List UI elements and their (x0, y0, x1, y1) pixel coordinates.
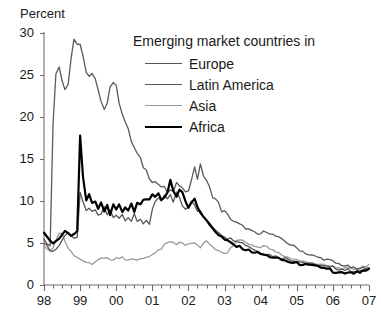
x-axis-tick-label: 03 (212, 294, 238, 307)
x-axis-tick-label: 04 (248, 294, 274, 307)
legend-line-swatch (145, 63, 182, 64)
legend-items: EuropeLatin AmericaAsiaAfrica (133, 53, 315, 137)
x-axis-tick-label: 05 (284, 294, 310, 307)
x-axis-tick-label: 00 (103, 294, 129, 307)
series-line-asia (44, 233, 369, 269)
y-axis-tick-label: 30 (8, 26, 34, 39)
legend-item-asia: Asia (145, 95, 315, 116)
legend-item-label: Latin America (189, 78, 274, 92)
x-axis-tick-label: 06 (320, 294, 346, 307)
y-axis-tick-label: 25 (8, 68, 34, 81)
legend-item-africa: Africa (145, 116, 315, 137)
legend-item-europe: Europe (145, 53, 315, 74)
legend-item-label: Asia (189, 99, 216, 113)
y-axis-tick-label: 15 (8, 152, 34, 165)
legend-item-label: Europe (189, 57, 234, 71)
chart-legend: Emerging market countries in EuropeLatin… (133, 33, 315, 137)
legend-line-swatch (145, 84, 182, 85)
y-axis-tick-label: 0 (8, 278, 34, 291)
legend-line-swatch (145, 105, 182, 106)
x-axis-tick-label: 98 (31, 294, 57, 307)
y-axis-tick-label: 20 (8, 110, 34, 123)
series-line-europe (44, 192, 369, 272)
x-axis-tick-label: 99 (67, 294, 93, 307)
legend-title: Emerging market countries in (133, 33, 315, 49)
legend-line-swatch (145, 126, 182, 128)
x-axis-tick-label: 01 (139, 294, 165, 307)
legend-item-label: Africa (189, 120, 225, 134)
series-line-africa (44, 136, 369, 274)
x-axis-tick-label: 07 (356, 294, 381, 307)
x-axis-tick-label: 02 (175, 294, 201, 307)
y-axis-tick-label: 5 (8, 236, 34, 249)
y-axis-tick-label: 10 (8, 194, 34, 207)
legend-item-latin-america: Latin America (145, 74, 315, 95)
